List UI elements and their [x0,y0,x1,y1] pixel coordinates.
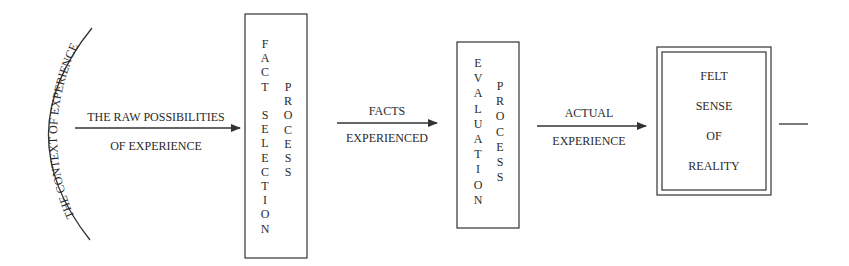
process-letter: S [497,170,504,184]
fact-selection-letter: F [262,37,269,51]
evaluation-letter: L [474,102,481,116]
evaluation-letter: A [474,86,483,100]
process-letter: C [284,123,292,137]
box-2-column-evaluation: EVALUATION [474,56,483,207]
arrow-2-top-label: FACTS [369,104,405,118]
fact-selection-letter: E [261,122,268,136]
evaluation-letter: U [474,117,483,131]
evaluation-letter: E [474,56,481,70]
arrow-actual-experience: ACTUAL EXPERIENCE [537,106,646,148]
fact-selection-letter: N [261,222,270,236]
context-label-text: THE CONTEXT OF EXPERIENCE [46,41,81,221]
fact-selection-letter: T [261,80,269,94]
fact-selection-letter: E [261,151,268,165]
process-letter: S [285,151,292,165]
process-letter: O [496,109,505,123]
box-1-column-process: PROCESS [284,80,293,179]
arrow-3-bottom-label: EXPERIENCE [552,134,625,148]
fact-selection-letter: T [261,179,269,193]
process-letter: R [496,94,504,108]
evaluation-letter: O [474,178,483,192]
arrow-raw-possibilities: THE RAW POSSIBILITIES OF EXPERIENCE [75,110,240,153]
box-3-line-sense: SENSE [696,99,733,113]
arrow-3-top-label: ACTUAL [565,106,614,120]
arrow-facts-experienced: FACTS EXPERIENCED [337,104,437,145]
process-letter: S [497,155,504,169]
process-letter: R [284,94,292,108]
evaluation-letter: I [476,162,480,176]
felt-sense-of-reality-box: FELT SENSE OF REALITY [657,47,771,195]
process-letter: E [496,140,503,154]
box-3-line-felt: FELT [700,69,728,83]
evaluation-process-box: EVALUATION PROCESS [457,42,519,228]
box-3-line-of: OF [706,129,722,143]
experience-flow-diagram: THE CONTEXT OF EXPERIENCE THE RAW POSSIB… [0,0,849,266]
process-letter: P [285,80,292,94]
process-letter: P [497,79,504,93]
process-letter: S [285,165,292,179]
box-3-line-reality: REALITY [688,159,740,173]
fact-selection-letter: C [261,65,269,79]
fact-selection-letter: L [261,136,268,150]
context-of-experience: THE CONTEXT OF EXPERIENCE [46,28,92,240]
process-letter: E [284,137,291,151]
arrow-1-bottom-label: OF EXPERIENCE [110,139,202,153]
process-letter: O [284,108,293,122]
arrow-2-bottom-label: EXPERIENCED [346,131,428,145]
evaluation-letter: A [474,132,483,146]
evaluation-letter: V [474,71,483,85]
fact-selection-letter: I [263,193,267,207]
evaluation-letter: N [474,193,483,207]
fact-selection-letter: S [262,108,269,122]
box-1-column-fact-selection: FACTSELECTION [261,37,270,236]
evaluation-letter: T [474,147,482,161]
fact-selection-process-box: FACTSELECTION PROCESS [245,14,307,258]
context-label: THE CONTEXT OF EXPERIENCE [46,41,81,221]
box-2-border [457,42,519,228]
box-1-border [245,14,307,258]
fact-selection-letter: C [261,165,269,179]
process-letter: C [496,125,504,139]
fact-selection-letter: O [261,207,270,221]
box-2-column-process: PROCESS [496,79,505,184]
arrow-1-top-label: THE RAW POSSIBILITIES [87,110,224,124]
fact-selection-letter: A [261,51,270,65]
